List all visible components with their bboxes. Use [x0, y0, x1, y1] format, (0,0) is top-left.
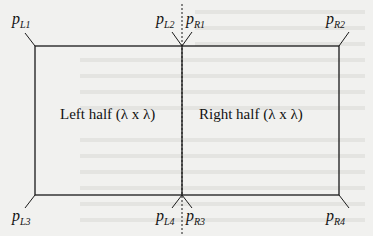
right-half-label: Right half (λ x λ) [199, 106, 303, 123]
point-label-pR4: pR4 [326, 207, 345, 227]
point-label-pR3: pR3 [186, 207, 205, 227]
point-label-pL2: pL2 [156, 10, 175, 30]
point-label-pR2: pR2 [326, 10, 345, 30]
left-half-label: Left half (λ x λ) [60, 106, 155, 123]
point-label-pR1: pR1 [186, 10, 205, 30]
point-label-pL3: pL3 [12, 207, 31, 227]
diagram-canvas [0, 0, 373, 236]
point-label-pL4: pL4 [156, 207, 175, 227]
point-label-pL1: pL1 [12, 10, 31, 30]
